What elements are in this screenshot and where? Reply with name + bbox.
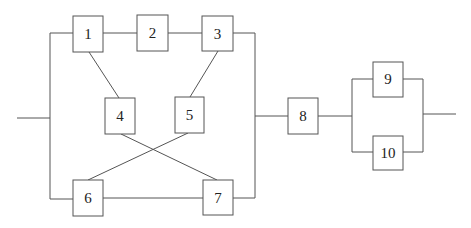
- block-8: 8: [288, 98, 318, 134]
- block-label: 1: [84, 26, 92, 42]
- reliability-block-diagram: 1 2 3 4 5 6 7 8 9 10: [0, 0, 471, 228]
- block-1: 1: [73, 16, 103, 52]
- wire-1-4: [89, 52, 119, 98]
- block-3: 3: [202, 16, 233, 51]
- block-label: 8: [299, 108, 307, 124]
- block-label: 4: [116, 108, 124, 124]
- wire-4-7: [121, 134, 217, 180]
- block-label: 3: [214, 26, 222, 42]
- block-label: 6: [84, 190, 92, 206]
- block-7: 7: [203, 180, 233, 215]
- block-6: 6: [73, 180, 103, 216]
- block-label: 9: [384, 71, 392, 87]
- block-4: 4: [105, 98, 135, 134]
- block-label: 5: [186, 107, 194, 123]
- block-9: 9: [373, 62, 403, 97]
- block-5: 5: [175, 97, 204, 133]
- wire-5-6: [88, 133, 188, 180]
- block-2: 2: [137, 15, 168, 51]
- block-label: 2: [149, 25, 157, 41]
- block-label: 7: [214, 190, 222, 206]
- block-label: 10: [381, 145, 396, 161]
- wire-3-5: [190, 51, 218, 97]
- block-10: 10: [373, 136, 403, 170]
